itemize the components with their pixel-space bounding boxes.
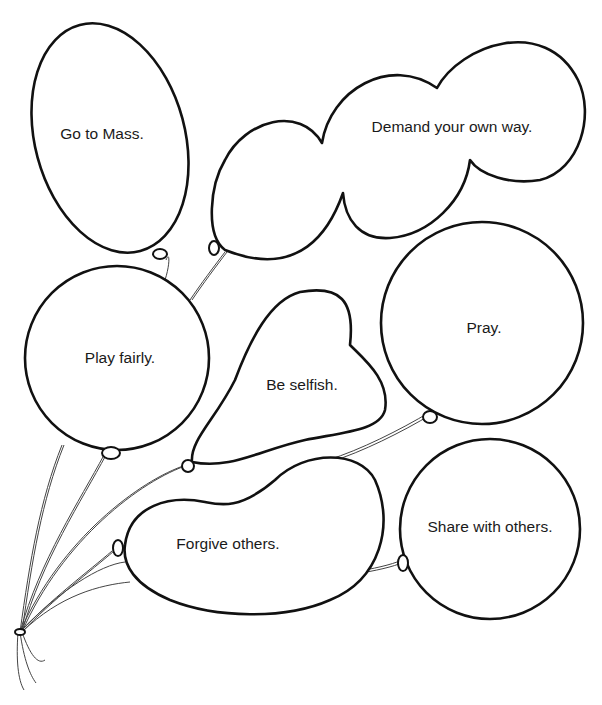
label-play-fairly: Play fairly. xyxy=(85,349,155,367)
label-forgive-others: Forgive others. xyxy=(176,535,279,553)
label-go-to-mass: Go to Mass. xyxy=(60,125,144,143)
bundle-knot xyxy=(15,629,25,635)
label-pray: Pray. xyxy=(466,319,501,337)
balloon-demand-your-own-way xyxy=(212,42,585,259)
label-be-selfish: Be selfish. xyxy=(266,376,338,394)
label-share-with-others: Share with others. xyxy=(428,518,553,536)
label-demand-your-own-way: Demand your own way. xyxy=(372,118,533,136)
